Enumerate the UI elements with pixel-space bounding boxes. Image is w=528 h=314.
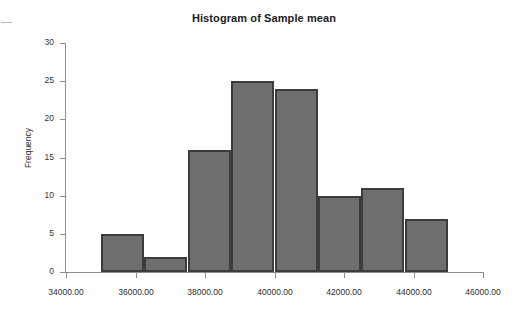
- y-tick-mark: [60, 272, 65, 273]
- y-tick-label: 10: [30, 190, 54, 200]
- x-tick-label: 40000.00: [240, 287, 310, 297]
- y-tick-mark: [60, 119, 65, 120]
- y-tick-label: 20: [30, 113, 54, 123]
- histogram-bar: [318, 196, 361, 272]
- x-tick-label: 34000.00: [31, 287, 101, 297]
- x-tick-mark: [344, 273, 345, 278]
- x-tick-label: 38000.00: [170, 287, 240, 297]
- x-tick-mark: [483, 273, 484, 278]
- y-tick-label: 30: [30, 37, 54, 47]
- histogram-bar: [405, 219, 448, 272]
- y-tick-mark: [60, 234, 65, 235]
- y-tick-label: 25: [30, 75, 54, 85]
- y-tick-mark: [60, 158, 65, 159]
- x-tick-mark: [66, 273, 67, 278]
- x-tick-mark: [275, 273, 276, 278]
- x-tick-mark: [205, 273, 206, 278]
- histogram-chart: Histogram of Sample mean Frequency 05101…: [0, 0, 528, 314]
- y-tick-mark: [60, 43, 65, 44]
- y-tick-label: 15: [30, 152, 54, 162]
- histogram-bar: [275, 89, 318, 272]
- histogram-bar: [144, 257, 187, 272]
- histogram-bar: [188, 150, 231, 272]
- histogram-bar: [231, 81, 274, 272]
- y-tick-label: 5: [30, 228, 54, 238]
- y-tick-mark: [60, 81, 65, 82]
- y-axis-label: Frequency: [23, 118, 33, 178]
- x-tick-label: 44000.00: [379, 287, 449, 297]
- chart-title: Histogram of Sample mean: [0, 12, 528, 24]
- histogram-bar: [361, 188, 404, 272]
- x-tick-mark: [136, 273, 137, 278]
- x-tick-mark: [414, 273, 415, 278]
- y-tick-mark: [60, 196, 65, 197]
- x-tick-label: 36000.00: [101, 287, 171, 297]
- x-tick-label: 46000.00: [448, 287, 518, 297]
- x-tick-label: 42000.00: [309, 287, 379, 297]
- y-tick-label: 0: [30, 266, 54, 276]
- histogram-bar: [101, 234, 144, 272]
